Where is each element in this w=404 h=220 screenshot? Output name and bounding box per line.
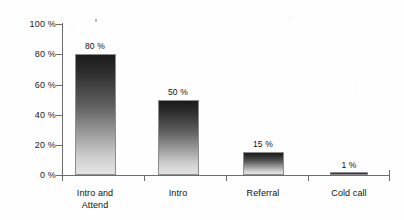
category-label-cold-call: Cold call [312, 187, 386, 199]
x-axis-tick-2 [226, 176, 227, 181]
y-axis-label-40: 40 % [0, 110, 56, 120]
value-label-referral: 15 % [228, 139, 298, 149]
bar-intro-and-attend [75, 54, 116, 175]
category-label-referral: Referral [226, 187, 300, 199]
x-axis-tick-3 [308, 176, 309, 181]
value-label-intro-and-attend: 80 % [60, 41, 130, 51]
y-axis-label-100: 100 % [0, 19, 56, 29]
y-axis-label-80: 80 % [0, 49, 56, 59]
bar-intro [158, 100, 199, 176]
x-axis-tick-4 [389, 176, 390, 181]
x-axis-tick-1 [144, 176, 145, 181]
y-axis-label-60: 60 % [0, 80, 56, 90]
y-axis-label-20: 20 % [0, 140, 56, 150]
category-label-intro: Intro [141, 187, 215, 199]
x-axis-line [56, 175, 390, 176]
bar-cold-call [330, 172, 368, 175]
y-axis-label-0: 0 % [0, 170, 56, 180]
scan-artifact-speck [95, 19, 97, 22]
x-axis-tick-0 [62, 176, 63, 181]
value-label-intro: 50 % [143, 87, 213, 97]
bar-chart: 100 % 80 % 60 % 40 % 20 % 0 % 80 % 50 % … [0, 0, 404, 220]
category-label-intro-and-attend: Intro and Attend [58, 187, 132, 211]
bar-referral [243, 152, 284, 175]
value-label-cold-call: 1 % [314, 160, 384, 170]
